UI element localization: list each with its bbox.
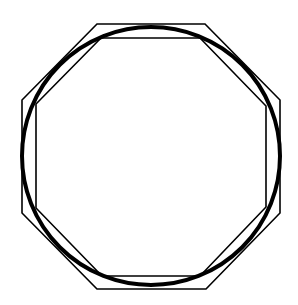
circle	[22, 27, 280, 285]
inner-octagon	[36, 38, 266, 276]
octagon-circle-diagram	[0, 0, 298, 305]
